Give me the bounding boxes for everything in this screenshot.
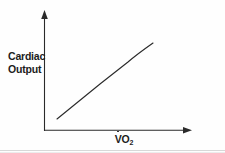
plot-area: [0, 0, 225, 153]
x-axis-label: VO2: [100, 133, 148, 149]
cardiac-output-vo2-figure: Cardiac Output VO2: [0, 0, 225, 153]
y-axis-arrowhead: [41, 10, 48, 19]
scan-artifact-line-secondary: [0, 152, 225, 153]
x-axis-label-main-wrap: VO: [115, 133, 130, 145]
x-axis-label-subscript: 2: [130, 139, 134, 146]
scan-artifact-line: [0, 150, 225, 151]
x-axis-label-main: VO: [115, 133, 130, 145]
data-series-line: [57, 43, 153, 119]
v-dot-icon: [117, 131, 119, 133]
y-axis-label-line1: Cardiac: [8, 50, 44, 63]
x-axis-arrowhead: [183, 127, 192, 134]
y-axis-label: Cardiac Output: [8, 50, 44, 75]
y-axis-label-line2: Output: [8, 63, 44, 76]
